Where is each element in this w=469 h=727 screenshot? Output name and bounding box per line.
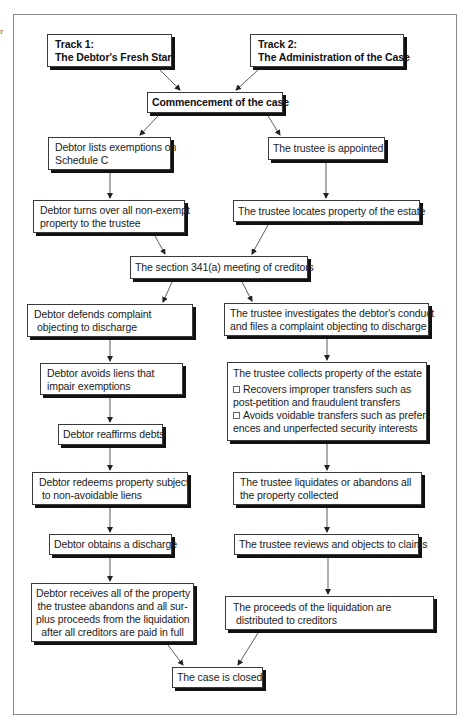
debtor-defends-complaint-box: Debtor defends complaint objecting to di… xyxy=(27,304,193,337)
trustee-collects-property-box: The trustee collects property of the est… xyxy=(227,362,427,441)
trustee-investigates-box: The trustee investigates the debtor's co… xyxy=(224,303,429,336)
box-text-line: The section 341(a) meeting of creditors xyxy=(135,261,303,274)
bullet-text: Recovers improper transfers such as xyxy=(243,383,411,395)
bullet-text: ences and unperfected security interests xyxy=(233,422,421,435)
box-text-line: The case is closed xyxy=(177,671,258,684)
box-text-line: The trustee investigates the debtor's co… xyxy=(230,307,423,320)
case-closed-box: The case is closed xyxy=(172,667,263,688)
box-text-line: Debtor reaffirms debts xyxy=(63,428,158,441)
box-text-line: distributed to creditors xyxy=(233,614,426,627)
box-text-line: the trustee abandons and all sur- xyxy=(36,600,189,613)
box-text-line: to non-avoidable liens xyxy=(39,489,181,502)
track2-title: Track 2: xyxy=(258,38,396,51)
debtor-avoids-liens-box: Debtor avoids liens that impair exemptio… xyxy=(40,363,183,395)
track1-box: Track 1: The Debtor's Fresh Start xyxy=(47,34,172,67)
box-text-line: The trustee locates property of the esta… xyxy=(238,205,415,218)
meeting-of-creditors-box: The section 341(a) meeting of creditors xyxy=(130,256,308,279)
box-text-line: The trustee is appointed xyxy=(273,142,380,155)
box-text-line: Debtor defends complaint xyxy=(34,308,186,321)
box-text-line: Debtor receives all of the property xyxy=(36,587,189,600)
box-text-line: Debtor redeems property subject xyxy=(39,476,181,489)
box-text-line: the property collected xyxy=(240,489,415,502)
trustee-liquidates-box: The trustee liquidates or abandons all t… xyxy=(233,472,422,505)
debtor-receives-property-box: Debtor receives all of the property the … xyxy=(31,583,194,642)
commencement-label: Commencement of the case xyxy=(152,96,278,109)
box-text-line: after all creditors are paid in full xyxy=(36,626,189,639)
box-text-line: plus proceeds from the liquidation xyxy=(36,613,189,626)
collects-heading: The trustee collects property of the est… xyxy=(233,367,421,380)
bullet-text: Avoids voidable transfers such as prefer… xyxy=(243,409,429,421)
debtor-lists-exemptions-box: Debtor lists exemptions on Schedule C xyxy=(48,137,171,170)
collects-bullet-recovers: Recovers improper transfers such as post… xyxy=(233,383,421,409)
debtor-reaffirms-box: Debtor reaffirms debts xyxy=(58,424,163,445)
box-text-line: and files a complaint objecting to disch… xyxy=(230,320,423,333)
trustee-locates-box: The trustee locates property of the esta… xyxy=(233,200,420,222)
box-text-line: The trustee reviews and objects to claim… xyxy=(239,538,414,551)
box-text-line: The proceeds of the liquidation are xyxy=(233,601,426,614)
box-text-line: The trustee liquidates or abandons all xyxy=(240,476,415,489)
box-text-line: Debtor turns over all non-exempt xyxy=(40,204,178,217)
collects-bullet-avoids: Avoids voidable transfers such as prefer… xyxy=(233,409,421,435)
checkbox-square-icon xyxy=(233,412,240,419)
box-text-line: Debtor lists exemptions on xyxy=(55,141,164,154)
box-text-line: objecting to discharge xyxy=(34,321,186,334)
box-text-line: Debtor obtains a discharge xyxy=(54,538,167,551)
debtor-obtains-discharge-box: Debtor obtains a discharge xyxy=(49,534,172,555)
bullet-text: post-petition and fraudulent transfers xyxy=(233,396,421,409)
box-text-line: impair exemptions xyxy=(47,380,176,393)
debtor-turns-over-box: Debtor turns over all non-exempt propert… xyxy=(33,200,185,233)
proceeds-distributed-box: The proceeds of the liquidation are dist… xyxy=(225,596,434,630)
debtor-redeems-box: Debtor redeems property subject to non-a… xyxy=(32,472,188,505)
track2-subtitle: The Administration of the Case xyxy=(258,51,396,64)
track2-box: Track 2: The Administration of the Case xyxy=(250,34,404,67)
commencement-box: Commencement of the case xyxy=(147,92,283,113)
box-text-line: Schedule C xyxy=(55,154,164,167)
checkbox-square-icon xyxy=(233,386,240,393)
track1-title: Track 1: xyxy=(55,38,164,51)
page-edge-mark: r xyxy=(0,29,4,35)
trustee-appointed-box: The trustee is appointed xyxy=(268,137,385,160)
trustee-reviews-claims-box: The trustee reviews and objects to claim… xyxy=(234,534,419,555)
box-text-line: property to the trustee xyxy=(40,217,178,230)
box-text-line: Debtor avoids liens that xyxy=(47,367,176,380)
track1-subtitle: The Debtor's Fresh Start xyxy=(55,51,164,64)
